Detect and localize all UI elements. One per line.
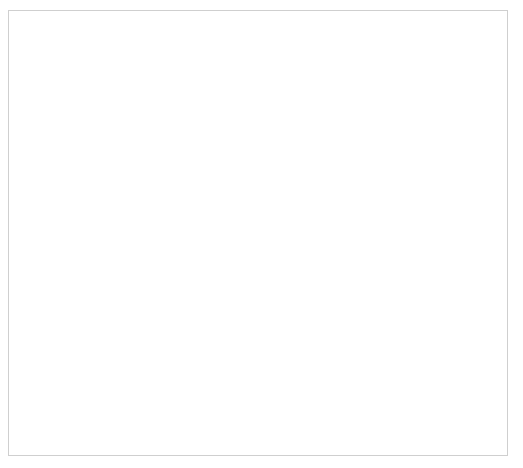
flowchart-connectors — [0, 0, 523, 468]
flowchart-canvas — [0, 0, 523, 468]
